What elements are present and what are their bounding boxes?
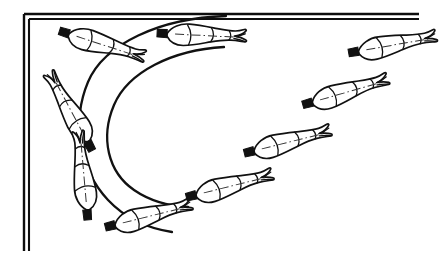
body-position-6	[300, 70, 392, 116]
motion-sequence-diagram	[0, 0, 448, 261]
body-position-5	[242, 121, 334, 164]
body-position-7	[347, 27, 439, 64]
body-position-3	[103, 195, 195, 238]
body-position-1	[41, 66, 102, 155]
body-sequence-group	[41, 21, 439, 238]
body-position-4	[184, 165, 276, 208]
diagram-root	[0, 0, 448, 261]
body-position-8	[157, 22, 248, 48]
body-position-2	[69, 130, 98, 221]
